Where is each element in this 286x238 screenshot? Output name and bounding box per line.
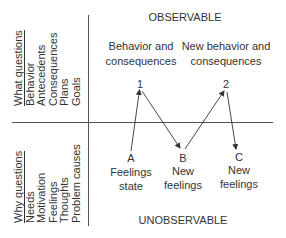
arrow-b-to-2 xyxy=(185,91,224,149)
node-1-label-line1: Behavior and xyxy=(109,40,174,53)
what-questions-column: What questions Behavior Antecedents Cons… xyxy=(13,30,83,106)
arrow-a-to-1 xyxy=(131,90,140,151)
what-questions-heading: What questions xyxy=(13,30,25,106)
node-a-label-line2: state xyxy=(119,180,143,193)
node-b-label-line1: New xyxy=(172,165,194,178)
node-2-label-line2: consequences xyxy=(191,55,262,68)
node-a-label-line1: Feelings xyxy=(110,166,152,179)
node-c-label-line2: feelings xyxy=(220,178,258,191)
unobservable-label: UNOBSERVABLE xyxy=(139,214,228,227)
node-c-marker: C xyxy=(235,151,243,164)
arrow-1-to-b xyxy=(142,91,180,148)
node-c-label-line1: New xyxy=(228,164,250,177)
node-1-marker: 1 xyxy=(137,78,143,91)
node-a-marker: A xyxy=(127,152,134,165)
what-item: Goals xyxy=(71,30,83,106)
node-b-marker: B xyxy=(179,152,186,165)
arrow-2-to-c xyxy=(227,92,236,149)
observable-label: OBSERVABLE xyxy=(149,11,222,24)
node-2-label-line1: New behavior and xyxy=(182,40,271,53)
node-2-marker: 2 xyxy=(223,78,229,91)
node-b-label-line2: feelings xyxy=(164,179,202,192)
node-1-label-line2: consequences xyxy=(106,55,177,68)
why-questions-heading: Why questions xyxy=(13,144,25,223)
why-item: Problem causes xyxy=(71,144,83,223)
why-questions-column: Why questions Needs Motivation Feelings … xyxy=(13,144,83,223)
